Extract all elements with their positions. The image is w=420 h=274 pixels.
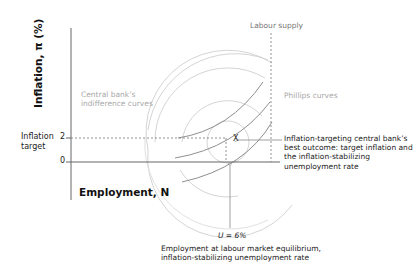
unemployment-rate-label: U = 6% <box>218 232 246 241</box>
best-outcome-note: Inflation-targeting central bank’s best … <box>284 134 413 171</box>
labour-supply-label: Labour supply <box>250 21 303 30</box>
y-axis-label: Inflation, π (%) <box>32 19 44 108</box>
phillips-curves <box>175 82 272 182</box>
y-tick-2: 2 <box>60 132 65 141</box>
indifference-curves <box>148 54 292 238</box>
outer-indifference-curve <box>146 50 272 150</box>
inflation-target-label: Inflation target <box>21 132 54 152</box>
x-axis-label: Employment, N <box>79 186 169 198</box>
best-outcome-point: X <box>233 134 238 143</box>
indifference-curves-label: Central bank’s indifference curves <box>81 90 153 108</box>
economics-diagram: Inflation, π (%) Employment, N Inflation… <box>0 0 420 274</box>
y-tick-0: 0 <box>60 156 65 165</box>
phillips-curves-label: Phillips curves <box>284 91 338 100</box>
equilibrium-note: Employment at labour market equilibrium,… <box>161 244 321 262</box>
